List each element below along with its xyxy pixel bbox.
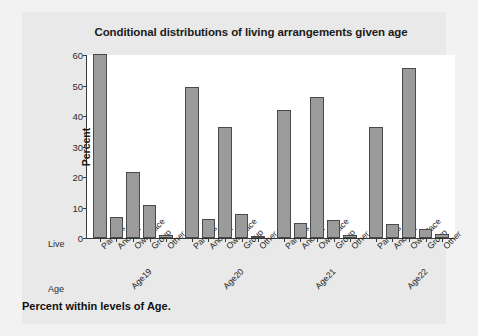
bar-age19-parents[interactable]: [93, 54, 107, 238]
bar-age20-ownplace[interactable]: [218, 127, 232, 238]
y-axis-tick-label: 10: [72, 202, 83, 213]
group-axis-label: Age: [48, 284, 64, 294]
plot-area: 0102030405060ParentsAnotherOwnPlaceGroup…: [87, 55, 455, 238]
bar-age21-group[interactable]: [327, 220, 341, 238]
bar-age19-ownplace[interactable]: [126, 172, 140, 238]
y-axis-tick-label: 60: [72, 50, 83, 61]
bar-age21-parents[interactable]: [277, 110, 291, 238]
bar-age22-ownplace[interactable]: [402, 68, 416, 238]
y-axis-tick-label: 40: [72, 111, 83, 122]
y-axis-tick-label: 30: [72, 141, 83, 152]
y-axis-tick-label: 20: [72, 172, 83, 183]
chart-title: Conditional distributions of living arra…: [56, 26, 446, 38]
bar-age21-another[interactable]: [294, 223, 308, 238]
category-axis-label: Live: [48, 239, 65, 249]
bar-age22-group[interactable]: [419, 229, 433, 238]
y-axis-tick-mark: [83, 238, 87, 239]
bar-age20-parents[interactable]: [185, 87, 199, 238]
bar-group-age20: ParentsAnotherOwnPlaceGroupOtherAge20: [179, 55, 271, 238]
footer-note: Percent within levels of Age.: [22, 300, 171, 312]
chart-figure: Conditional distributions of living arra…: [22, 12, 446, 324]
bar-age19-group[interactable]: [143, 205, 157, 238]
group-axis-tick-label: Age20: [221, 266, 246, 291]
bar-age21-ownplace[interactable]: [310, 97, 324, 238]
group-axis-tick-label: Age19: [129, 266, 154, 291]
bar-age22-parents[interactable]: [369, 127, 383, 238]
group-axis-tick-label: Age22: [405, 266, 430, 291]
plot-panel: Percent 0102030405060ParentsAnotherOwnPl…: [86, 55, 455, 239]
bar-age20-group[interactable]: [235, 214, 249, 238]
group-axis-tick-label: Age21: [313, 266, 338, 291]
bar-age20-another[interactable]: [202, 219, 216, 238]
bar-group-age19: ParentsAnotherOwnPlaceGroupOtherAge19: [87, 55, 179, 238]
bar-group-age21: ParentsAnotherOwnPlaceGroupOtherAge21: [271, 55, 363, 238]
y-axis-tick-label: 50: [72, 80, 83, 91]
bar-group-age22: ParentsAnotherOwnPlaceGroupOtherAge22: [363, 55, 455, 238]
bar-age19-another[interactable]: [110, 217, 124, 238]
